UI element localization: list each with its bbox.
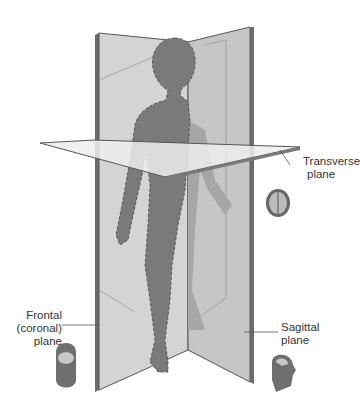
transverse-label-line1: Transverse	[303, 155, 360, 168]
head-top-view-icon	[266, 189, 290, 217]
sagittal-label-line1: Sagittal	[281, 321, 319, 334]
head-front-section-icon	[56, 343, 76, 388]
head-side-section-icon	[272, 355, 296, 392]
sagittal-label-line2: plane	[281, 334, 319, 347]
frontal-label: Frontal (coronal) plane	[4, 309, 62, 348]
sagittal-label: Sagittal plane	[281, 321, 319, 347]
transverse-label-line2: plane	[303, 168, 360, 181]
transverse-label: Transverse plane	[303, 155, 360, 181]
frontal-label-line3: plane	[4, 335, 62, 348]
transverse-plane	[40, 140, 300, 180]
frontal-label-line1: Frontal	[4, 309, 62, 322]
frontal-label-line2: (coronal)	[4, 322, 62, 335]
